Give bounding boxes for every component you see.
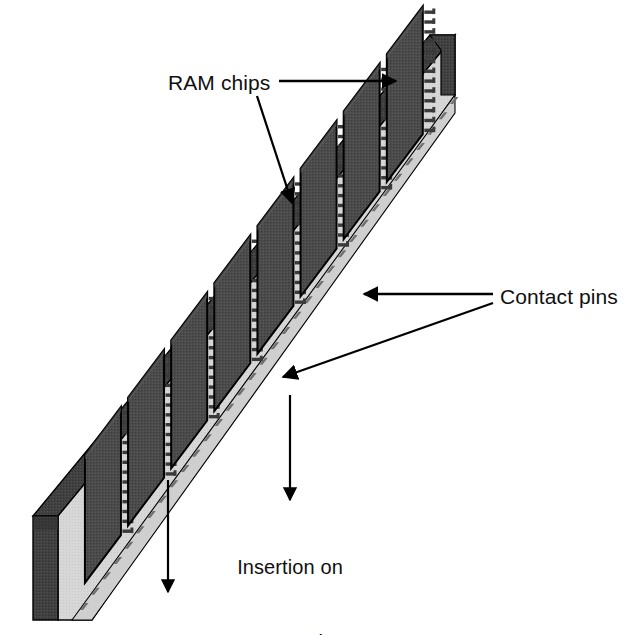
diagram-canvas: RAM chips Contact pins Insertion on memo…	[0, 0, 638, 635]
caption-line-1: Insertion on	[205, 555, 375, 580]
label-contact-pins: Contact pins	[500, 285, 618, 309]
label-ram-chips: RAM chips	[168, 71, 270, 95]
leader-contact-pins-lower	[283, 303, 493, 377]
board-left-end-face	[33, 516, 58, 620]
caption-line-2: memory slots	[205, 630, 375, 635]
label-insertion-caption: Insertion on memory slots on the motherb…	[205, 505, 375, 635]
leader-ram-chips-lower	[257, 96, 292, 203]
